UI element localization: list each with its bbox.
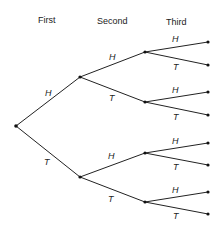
node-HT bbox=[143, 100, 146, 103]
node-TH bbox=[143, 151, 146, 154]
node-TT bbox=[143, 200, 146, 203]
node-T bbox=[78, 175, 81, 178]
label-third-TH-H: H bbox=[172, 136, 179, 146]
node-HH bbox=[143, 50, 146, 53]
node-H bbox=[78, 75, 81, 78]
leaf-HHT bbox=[206, 63, 209, 66]
label-second-T-H: H bbox=[108, 151, 115, 161]
leaf-HTT bbox=[206, 113, 209, 116]
leaf-THH bbox=[206, 141, 209, 144]
edge-first-T bbox=[16, 126, 80, 177]
label-third-HH-T: T bbox=[173, 62, 180, 72]
label-third-HH-H: H bbox=[172, 34, 179, 44]
label-third-HT-T: T bbox=[173, 112, 180, 122]
root-node bbox=[14, 124, 18, 128]
header-first: First bbox=[38, 15, 56, 25]
leaf-THT bbox=[206, 163, 209, 166]
leaf-HTH bbox=[206, 90, 209, 93]
label-second-H-H: H bbox=[109, 52, 116, 62]
label-third-TT-T: T bbox=[173, 211, 180, 221]
label-third-TT-H: H bbox=[172, 185, 179, 195]
leaf-TTH bbox=[206, 190, 209, 193]
edge-first-H bbox=[16, 77, 80, 126]
header-third: Third bbox=[166, 17, 187, 27]
leaf-HHH bbox=[206, 40, 209, 43]
label-first-H: H bbox=[45, 88, 52, 98]
leaf-TTT bbox=[206, 212, 209, 215]
header-second: Second bbox=[97, 16, 128, 26]
probability-tree-diagram: First Second Third H T H T H T H T H T H… bbox=[0, 0, 224, 231]
label-second-H-T: T bbox=[109, 93, 116, 103]
label-third-TH-T: T bbox=[173, 162, 180, 172]
label-third-HT-H: H bbox=[172, 85, 179, 95]
label-second-T-T: T bbox=[108, 194, 115, 204]
label-first-T: T bbox=[44, 157, 51, 167]
